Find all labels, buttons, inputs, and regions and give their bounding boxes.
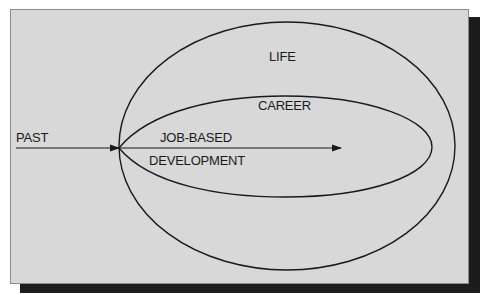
career-label: CAREER <box>258 99 311 112</box>
job-based-label: JOB-BASED <box>160 131 232 144</box>
development-label: DEVELOPMENT <box>149 154 245 167</box>
past-label: PAST <box>16 131 48 144</box>
diagram-canvas <box>0 0 485 295</box>
life-label: LIFE <box>269 50 296 63</box>
